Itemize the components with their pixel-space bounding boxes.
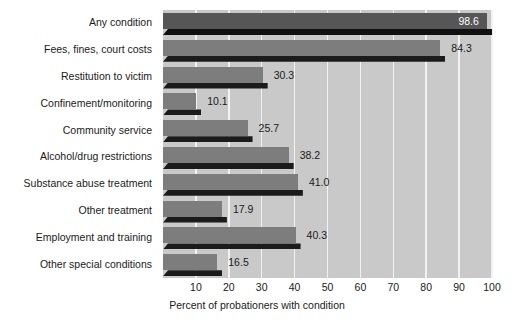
- bar-value-label: 16.5: [228, 257, 248, 268]
- category-label: Any condition: [0, 17, 152, 28]
- bar-row: 38.2: [163, 147, 492, 174]
- bar-chart: Any condition Fees, fines, court costs R…: [0, 0, 514, 328]
- category-label: Confinement/monitoring: [0, 98, 152, 109]
- category-label: Substance abuse treatment: [0, 178, 152, 189]
- bar-row: 98.6: [163, 13, 492, 40]
- bar-value-label: 17.9: [233, 204, 253, 215]
- bar-shadow: [163, 136, 253, 142]
- bar-value-label: 10.1: [207, 96, 227, 107]
- x-tick-label: 10: [190, 281, 202, 293]
- bar[interactable]: [163, 227, 296, 243]
- x-tick-label: 80: [420, 281, 432, 293]
- x-tick-label: 50: [322, 281, 334, 293]
- category-label: Alcohol/drug restrictions: [0, 151, 152, 162]
- x-axis-title: Percent of probationers with condition: [0, 299, 514, 311]
- bar-shadow: [163, 83, 268, 89]
- category-label: Other treatment: [0, 205, 152, 216]
- category-label: Employment and training: [0, 232, 152, 243]
- x-axis-ticks: 102030405060708090100: [163, 281, 492, 297]
- bar-value-label: 38.2: [300, 150, 320, 161]
- bar-shadow: [163, 270, 222, 276]
- bar-shadow: [163, 29, 492, 35]
- bar[interactable]: [163, 93, 196, 109]
- x-tick-label: 30: [256, 281, 268, 293]
- bar[interactable]: [163, 13, 487, 29]
- bar-row: 17.9: [163, 201, 492, 228]
- plot-area: 98.684.330.310.125.738.241.017.940.316.5: [163, 10, 492, 278]
- bar[interactable]: [163, 147, 289, 163]
- bar-value-label: 41.0: [309, 177, 329, 188]
- bar[interactable]: [163, 40, 440, 56]
- bar[interactable]: [163, 120, 248, 136]
- x-tick-label: 100: [483, 281, 501, 293]
- category-label: Other special conditions: [0, 259, 152, 270]
- bar-shadow: [163, 243, 301, 249]
- bar-row: 41.0: [163, 174, 492, 201]
- bar-row: 10.1: [163, 93, 492, 120]
- category-label: Fees, fines, court costs: [0, 44, 152, 55]
- category-axis-labels: Any condition Fees, fines, court costs R…: [0, 10, 158, 278]
- x-tick-label: 70: [387, 281, 399, 293]
- bar-value-label: 25.7: [259, 123, 279, 134]
- bar[interactable]: [163, 67, 263, 83]
- bar-value-label: 84.3: [451, 43, 471, 54]
- bar-value-label: 30.3: [274, 70, 294, 81]
- bar-row: 40.3: [163, 227, 492, 254]
- bar-shadow: [163, 190, 303, 196]
- bar-row: 84.3: [163, 40, 492, 67]
- bar-shadow: [163, 163, 294, 169]
- bar-shadow: [163, 56, 445, 62]
- bar-row: 16.5: [163, 254, 492, 281]
- x-tick-label: 60: [355, 281, 367, 293]
- bar[interactable]: [163, 254, 217, 270]
- bar-row: 30.3: [163, 67, 492, 94]
- bar-row: 25.7: [163, 120, 492, 147]
- x-tick-label: 90: [453, 281, 465, 293]
- bar-shadow: [163, 217, 227, 223]
- x-tick-label: 20: [223, 281, 235, 293]
- bar-value-label: 98.6: [458, 16, 478, 27]
- category-label: Restitution to victim: [0, 71, 152, 82]
- x-tick-label: 40: [289, 281, 301, 293]
- bar-value-label: 40.3: [307, 230, 327, 241]
- bar[interactable]: [163, 201, 222, 217]
- category-label: Community service: [0, 125, 152, 136]
- bar[interactable]: [163, 174, 298, 190]
- bar-shadow: [163, 109, 201, 115]
